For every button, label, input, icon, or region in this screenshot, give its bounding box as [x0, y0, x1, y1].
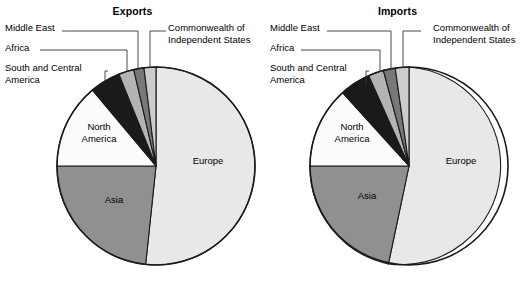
label-na-line1: North — [87, 121, 110, 132]
panel-exports: Exports — [0, 0, 265, 281]
callout-sca-line1: South and Central — [270, 62, 347, 73]
callout-south-and-central-america-exports: South and Central America — [5, 62, 110, 85]
callout-cis-exports: Commonwealth of Independent States — [168, 22, 264, 45]
label-north-america-exports: North America — [66, 121, 132, 144]
panel-imports: Imports — [265, 0, 530, 281]
label-na-line2: America — [82, 133, 117, 144]
leader-cis — [403, 31, 421, 68]
callout-middle-east-exports: Middle East — [5, 22, 55, 34]
label-na-line1: North — [340, 121, 363, 132]
label-asia-imports: Asia — [337, 190, 397, 202]
slice-asia — [57, 166, 156, 264]
callout-cis-line2: Independent States — [168, 34, 250, 45]
label-asia-exports: Asia — [84, 194, 144, 206]
callout-africa-exports: Africa — [5, 42, 29, 54]
callout-sca-line1: South and Central — [5, 62, 82, 73]
pie-chart-figure: Exports — [0, 0, 530, 281]
callout-middle-east-imports: Middle East — [270, 22, 320, 34]
callout-cis-imports: Commonwealth of Independent States — [433, 22, 529, 45]
callout-sca-line2: America — [5, 74, 40, 85]
leader-cis — [150, 31, 166, 68]
callout-sca-line2: America — [270, 74, 305, 85]
label-na-line2: America — [335, 133, 370, 144]
label-europe-imports: Europe — [431, 155, 491, 167]
callout-south-and-central-america-imports: South and Central America — [270, 62, 375, 85]
label-europe-exports: Europe — [178, 155, 238, 167]
callout-cis-line1: Commonwealth of — [433, 22, 510, 33]
callout-africa-imports: Africa — [270, 42, 294, 54]
label-north-america-imports: North America — [319, 121, 385, 144]
callout-cis-line1: Commonwealth of — [168, 22, 245, 33]
callout-cis-line2: Independent States — [433, 34, 515, 45]
